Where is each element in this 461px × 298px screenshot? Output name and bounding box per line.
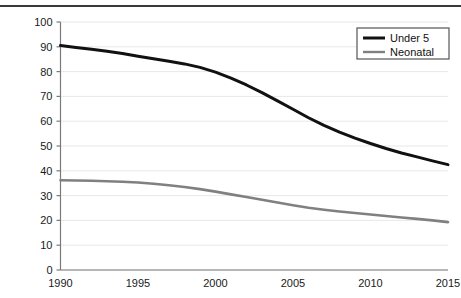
- chart-legend: Under 5Neonatal: [357, 28, 449, 59]
- y-tick-label-0: 0: [46, 264, 52, 276]
- y-tick-label-40: 40: [40, 165, 52, 177]
- y-tick-label-80: 80: [40, 66, 52, 78]
- y-axis-group: 0102030405060708090100: [34, 16, 60, 276]
- y-tick-label-10: 10: [40, 239, 52, 251]
- x-tick-label-2010: 2010: [358, 277, 382, 289]
- legend-label-neonatal: Neonatal: [390, 46, 434, 58]
- x-tick-label-1990: 1990: [48, 277, 72, 289]
- x-tick-label-2015: 2015: [436, 277, 460, 289]
- legend-label-under-5: Under 5: [390, 32, 429, 44]
- chart-container: 0102030405060708090100 19901995200020052…: [0, 0, 461, 298]
- y-tick-label-100: 100: [34, 16, 52, 28]
- y-tick-label-30: 30: [40, 190, 52, 202]
- y-tick-label-50: 50: [40, 140, 52, 152]
- x-tick-label-2005: 2005: [281, 277, 305, 289]
- y-tick-label-20: 20: [40, 214, 52, 226]
- x-tick-label-2000: 2000: [203, 277, 227, 289]
- x-axis-group: 199019952000200520102015: [48, 270, 460, 289]
- y-tick-label-60: 60: [40, 115, 52, 127]
- y-tick-label-70: 70: [40, 90, 52, 102]
- series-line-neonatal: [61, 180, 449, 222]
- y-tick-label-90: 90: [40, 41, 52, 53]
- series-line-under-5: [61, 46, 449, 165]
- x-tick-label-1995: 1995: [126, 277, 150, 289]
- line-chart: 0102030405060708090100 19901995200020052…: [0, 0, 461, 298]
